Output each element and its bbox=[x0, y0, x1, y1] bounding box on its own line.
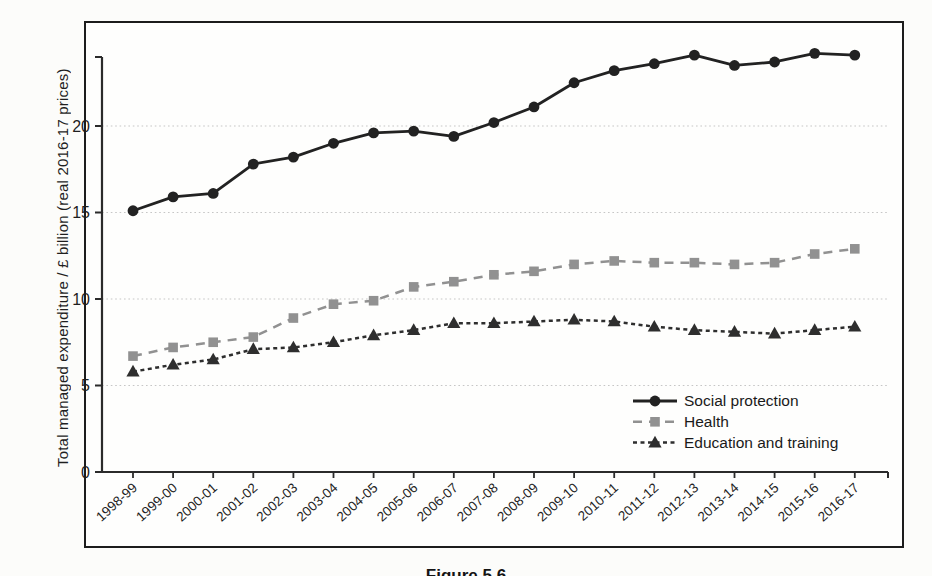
data-point-health bbox=[329, 299, 339, 309]
data-point-social-protection bbox=[849, 50, 860, 61]
data-point-health bbox=[609, 256, 619, 266]
data-point-social-protection bbox=[448, 131, 459, 142]
data-point-social-protection bbox=[769, 57, 780, 68]
series-line-health bbox=[133, 249, 855, 356]
data-point-education-and-training bbox=[247, 342, 260, 354]
y-tick-labels: 05101520 bbox=[72, 118, 102, 481]
data-point-education-and-training bbox=[848, 320, 861, 332]
legend-item-health: Health bbox=[633, 413, 729, 430]
data-point-social-protection bbox=[529, 102, 540, 113]
x-tick-label: 1998-99 bbox=[93, 480, 140, 524]
legend: Social protectionHealthEducation and tra… bbox=[633, 392, 838, 451]
series-health bbox=[128, 244, 859, 361]
y-tick-label: 15 bbox=[72, 204, 90, 221]
data-point-health bbox=[650, 258, 660, 268]
data-point-health bbox=[369, 296, 379, 306]
legend-label: Social protection bbox=[684, 392, 799, 409]
x-tick-label: 2016-17 bbox=[815, 480, 862, 524]
data-point-education-and-training bbox=[768, 327, 781, 339]
data-point-social-protection bbox=[809, 48, 820, 59]
data-point-social-protection bbox=[689, 50, 700, 61]
data-point-social-protection bbox=[168, 192, 179, 203]
data-point-social-protection bbox=[408, 126, 419, 137]
data-point-social-protection bbox=[368, 128, 379, 139]
data-point-social-protection bbox=[609, 65, 620, 76]
data-point-social-protection bbox=[128, 205, 139, 216]
legend-item-education-and-training: Education and training bbox=[633, 434, 838, 451]
data-point-health bbox=[289, 313, 299, 323]
line-chart: 051015201998-991999-002000-012001-022002… bbox=[0, 0, 932, 576]
series-social-protection bbox=[128, 48, 861, 216]
data-point-health bbox=[128, 351, 138, 361]
x-tick-label: 2012-13 bbox=[655, 480, 702, 524]
data-point-education-and-training bbox=[447, 316, 460, 328]
gridlines bbox=[102, 126, 888, 386]
x-tick-labels: 1998-991999-002000-012001-022002-032003-… bbox=[93, 472, 862, 524]
data-point-health bbox=[850, 244, 860, 254]
x-tick-label: 2007-08 bbox=[454, 480, 501, 524]
x-tick-label: 2010-11 bbox=[575, 480, 621, 524]
data-point-health bbox=[690, 258, 700, 268]
data-point-health bbox=[449, 277, 459, 287]
x-tick-label: 2015-16 bbox=[775, 480, 822, 524]
scanned-document-page: 051015201998-991999-002000-012001-022002… bbox=[0, 0, 932, 576]
data-point-health bbox=[569, 260, 579, 270]
x-tick-label: 2011-12 bbox=[615, 480, 661, 524]
data-point-education-and-training bbox=[568, 313, 581, 325]
data-point-education-and-training bbox=[126, 365, 139, 377]
series-education-and-training bbox=[126, 313, 861, 377]
x-tick-label: 1999-00 bbox=[133, 480, 180, 524]
data-point-social-protection bbox=[248, 159, 259, 170]
figure-caption: Figure 5.6 bbox=[0, 566, 932, 576]
x-tick-label: 2004-05 bbox=[334, 480, 381, 524]
data-point-health bbox=[529, 267, 539, 277]
data-point-health bbox=[249, 332, 259, 342]
y-tick-label: 0 bbox=[81, 464, 90, 481]
x-tick-label: 2001-02 bbox=[213, 480, 260, 524]
y-tick-label: 20 bbox=[72, 118, 90, 135]
data-point-health bbox=[770, 258, 780, 268]
legend-label: Education and training bbox=[684, 434, 838, 451]
y-tick-label: 10 bbox=[72, 291, 90, 308]
x-tick-label: 2014-15 bbox=[735, 480, 782, 524]
data-point-social-protection bbox=[328, 138, 339, 149]
data-point-health bbox=[810, 249, 820, 259]
legend-label: Health bbox=[684, 413, 729, 430]
x-tick-label: 2000-01 bbox=[173, 480, 220, 524]
data-point-social-protection bbox=[649, 58, 660, 69]
series-line-social-protection bbox=[133, 53, 855, 210]
data-point-social-protection bbox=[489, 117, 500, 128]
x-tick-label: 2013-14 bbox=[695, 480, 742, 525]
y-tick-label: 5 bbox=[81, 377, 90, 394]
x-tick-label: 2009-10 bbox=[534, 480, 581, 524]
data-point-health bbox=[409, 282, 419, 292]
data-point-health bbox=[168, 343, 178, 353]
legend-marker-social-protection bbox=[650, 396, 661, 407]
data-point-health bbox=[730, 260, 740, 270]
legend-item-social-protection: Social protection bbox=[633, 392, 799, 409]
data-point-social-protection bbox=[208, 188, 219, 199]
data-point-social-protection bbox=[569, 77, 580, 88]
x-tick-label: 2008-09 bbox=[494, 480, 541, 524]
x-tick-label: 2005-06 bbox=[374, 480, 421, 524]
x-tick-label: 2006-07 bbox=[414, 480, 461, 524]
data-point-health bbox=[208, 337, 218, 347]
data-point-education-and-training bbox=[327, 335, 340, 347]
legend-marker-health bbox=[650, 417, 660, 427]
data-point-health bbox=[489, 270, 499, 280]
x-tick-label: 2002-03 bbox=[254, 480, 301, 524]
data-point-social-protection bbox=[288, 152, 299, 163]
x-tick-label: 2003-04 bbox=[294, 480, 341, 525]
y-axis-title: Total managed expenditure / £ billion (r… bbox=[51, 50, 73, 485]
data-point-social-protection bbox=[729, 60, 740, 71]
